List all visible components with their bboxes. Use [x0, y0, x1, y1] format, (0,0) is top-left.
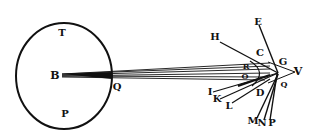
label-P: P: [61, 109, 69, 119]
label-Q2: Q: [281, 80, 288, 88]
label-T: T: [58, 28, 65, 38]
label-E: E: [254, 17, 262, 27]
label-B: B: [50, 70, 59, 81]
label-H: H: [210, 32, 219, 42]
diagram: T B P Q E H C G V R O I K L D Q M N P: [0, 0, 315, 135]
label-G: G: [279, 57, 288, 67]
label-Q: Q: [113, 82, 122, 92]
label-N: N: [257, 118, 266, 128]
label-I: I: [208, 87, 213, 97]
label-L: L: [225, 101, 232, 111]
label-P2: P: [268, 118, 276, 128]
diagram-svg: [0, 0, 315, 135]
label-C: C: [256, 48, 264, 58]
label-R: R: [243, 62, 250, 70]
label-D: D: [256, 88, 265, 98]
label-V: V: [294, 66, 303, 77]
label-O: O: [242, 72, 249, 80]
label-K: K: [213, 94, 222, 104]
